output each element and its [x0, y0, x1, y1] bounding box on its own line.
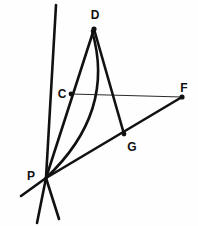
point-dot-c	[69, 92, 74, 97]
point-label-p: P	[27, 169, 35, 183]
segment-p-through-g-to-f	[46, 97, 182, 178]
point-label-d: D	[91, 8, 100, 22]
segment-p-tail-right	[46, 178, 59, 219]
point-dot-f	[179, 94, 184, 99]
diagram-canvas: D C F G P	[0, 0, 198, 226]
point-label-g: G	[127, 140, 136, 154]
geometry-diagram: D C F G P	[0, 0, 198, 226]
point-label-c: C	[58, 87, 67, 101]
point-dot-d	[91, 26, 96, 31]
segment-c-f	[71, 94, 182, 97]
point-dot-g	[122, 132, 127, 137]
point-label-f: F	[180, 81, 187, 95]
